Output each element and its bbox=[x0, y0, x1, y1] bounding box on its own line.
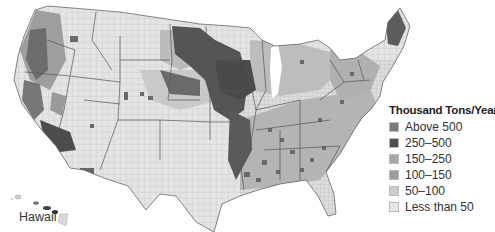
legend-item-100-150: 100–150 bbox=[389, 167, 495, 183]
legend-swatch-icon bbox=[389, 138, 399, 148]
legend-item-above-500: Above 500 bbox=[389, 119, 495, 135]
legend-label: 250–500 bbox=[405, 136, 452, 150]
legend-label: 100–150 bbox=[405, 168, 452, 182]
legend-item-less-than-50: Less than 50 bbox=[389, 199, 495, 215]
legend-item-250-500: 250–500 bbox=[389, 135, 495, 151]
legend-item-50-100: 50–100 bbox=[389, 183, 495, 199]
legend-label: 150–250 bbox=[405, 152, 452, 166]
legend-label: Above 500 bbox=[405, 120, 462, 134]
legend-swatch-icon bbox=[389, 154, 399, 164]
legend-swatch-icon bbox=[389, 186, 399, 196]
legend: Thousand Tons/Year Above 500 250–500 150… bbox=[389, 104, 495, 215]
legend-swatch-icon bbox=[389, 122, 399, 132]
legend-item-150-250: 150–250 bbox=[389, 151, 495, 167]
legend-title: Thousand Tons/Year bbox=[389, 104, 495, 116]
legend-swatch-icon bbox=[389, 202, 399, 212]
legend-swatch-icon bbox=[389, 170, 399, 180]
hawaii-label: Hawaii bbox=[19, 210, 57, 224]
legend-label: 50–100 bbox=[405, 184, 445, 198]
legend-label: Less than 50 bbox=[405, 200, 474, 214]
